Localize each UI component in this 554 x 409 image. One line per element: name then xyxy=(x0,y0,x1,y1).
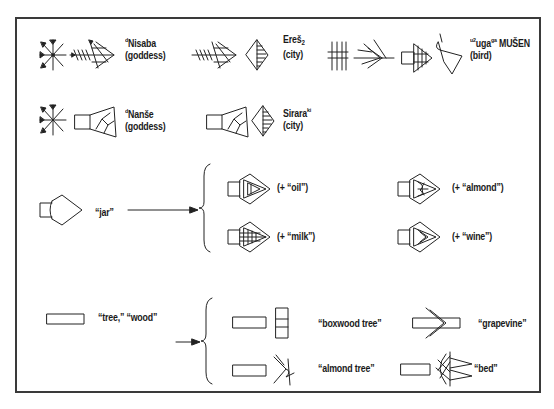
jar-almond-sign-icon xyxy=(396,172,442,206)
brace-icon xyxy=(198,162,212,254)
wood-almond-tree-sign-icon xyxy=(232,353,302,387)
label-almond: (+ “almond”) xyxy=(452,182,503,194)
uga-sign-icon xyxy=(324,30,464,76)
star-sign-icon xyxy=(38,103,68,137)
label-oil: (+ “oil”) xyxy=(277,182,308,194)
label-jar: “jar” xyxy=(95,207,114,219)
jar-milk-sign-icon xyxy=(226,220,272,254)
label-sirara: Siraraki(city) xyxy=(283,104,311,132)
wood-boxwood-sign-icon xyxy=(232,306,302,340)
label-almond-tree: “almond tree” xyxy=(318,363,374,375)
jar-sign-icon xyxy=(38,193,84,227)
fish-enclosure-sign-icon xyxy=(204,103,250,139)
label-tree-wood: “tree,” “wood” xyxy=(98,312,157,324)
label-milk: (+ “milk”) xyxy=(277,231,315,243)
arrow-icon xyxy=(128,205,198,215)
ab-sign-icon xyxy=(250,104,276,138)
jar-wine-sign-icon xyxy=(396,220,442,254)
jar-oil-sign-icon xyxy=(226,172,272,206)
fish-enclosure-sign-icon xyxy=(72,103,118,139)
label-uga-mushen: u2ugaga MUŠEN(bird) xyxy=(470,34,530,62)
wood-bed-sign-icon xyxy=(400,348,476,388)
grain-sign-icon xyxy=(190,38,238,72)
label-nanshe: dNanše(goddess) xyxy=(125,105,165,133)
brace-icon xyxy=(200,296,214,386)
label-grapevine: “grapevine” xyxy=(478,318,526,330)
grain-sign-icon xyxy=(68,38,116,72)
label-eresh: Ereš2(city) xyxy=(283,34,305,61)
label-wine: (+ “wine”) xyxy=(452,231,492,243)
star-sign-icon xyxy=(38,38,68,72)
label-bed: “bed” xyxy=(474,363,498,375)
wood-grapevine-sign-icon xyxy=(412,306,466,340)
arrow-icon xyxy=(176,337,200,347)
label-nisaba: dNisaba(goddess) xyxy=(125,34,165,62)
ab-sign-icon xyxy=(244,38,270,72)
label-boxwood-tree: “boxwood tree” xyxy=(318,318,382,330)
wood-sign-icon xyxy=(46,312,86,326)
